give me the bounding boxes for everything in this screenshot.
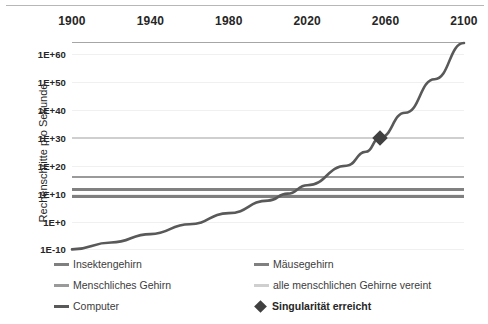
legend-item-computer[interactable]: Computer: [54, 300, 119, 312]
legend-item-label: Singularität erreicht: [272, 300, 371, 312]
legend-line-icon: [54, 263, 69, 266]
y-tick-1E+40: 1E+40: [38, 104, 66, 115]
legend-item-label: Computer: [73, 300, 119, 312]
y-tick-1E+30: 1E+30: [38, 132, 66, 143]
top-border-rule: [6, 5, 484, 6]
plot-area: [72, 43, 464, 255]
x-tick-2020: 2020: [293, 14, 321, 28]
y-tick-1E+50: 1E+50: [38, 77, 66, 88]
legend-item-singularit-t-erreicht[interactable]: Singularität erreicht: [254, 300, 371, 312]
legend-diamond-icon: [254, 300, 267, 313]
legend-item-label: Menschliches Gehirn: [73, 279, 171, 291]
y-tick-1E+60: 1E+60: [38, 49, 66, 60]
x-tick-2060: 2060: [372, 14, 400, 28]
y-tick-1E+20: 1E+20: [38, 160, 66, 171]
x-axis-tick-labels: 190019401980202020602100: [0, 14, 488, 32]
computing-power-singularity-chart: 190019401980202020602100 Rechenschritte …: [0, 0, 488, 324]
legend-item-label: alle menschlichen Gehirne vereint: [273, 279, 431, 291]
legend-item-menschliches-gehirn[interactable]: Menschliches Gehirn: [54, 279, 171, 291]
legend-line-icon: [254, 284, 269, 287]
x-tick-1980: 1980: [215, 14, 243, 28]
legend-item-m-usegehirn[interactable]: Mäusegehirn: [254, 258, 334, 270]
legend-item-alle-menschlichen-gehirne-vereint[interactable]: alle menschlichen Gehirne vereint: [254, 279, 431, 291]
legend-item-label: Insektengehirn: [73, 258, 142, 270]
y-tick-1E-10: 1E-10: [40, 244, 66, 255]
x-tick-1940: 1940: [137, 14, 165, 28]
computer-performance-curve: [72, 43, 464, 255]
legend-item-label: Mäusegehirn: [273, 258, 334, 270]
legend-line-icon: [54, 305, 69, 308]
legend-line-icon: [54, 284, 69, 287]
chart-legend: InsektengehirnMäusegehirnMenschliches Ge…: [54, 258, 484, 320]
y-tick-1E+0: 1E+0: [43, 216, 66, 227]
x-tick-2100: 2100: [450, 14, 478, 28]
y-tick-1E+10: 1E+10: [38, 188, 66, 199]
legend-line-icon: [254, 263, 269, 266]
legend-item-insektengehirn[interactable]: Insektengehirn: [54, 258, 142, 270]
computer-curve-path: [72, 43, 464, 249]
